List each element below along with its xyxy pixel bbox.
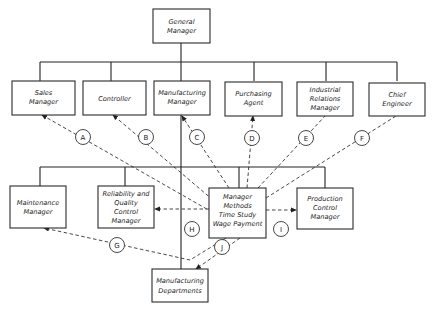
dashed-line-d <box>247 116 253 188</box>
node-label-line: Manager <box>311 104 341 112</box>
node-label-line: Manager <box>24 208 54 216</box>
label-b-text: B <box>144 134 149 142</box>
label-g: G <box>110 238 125 253</box>
label-c: C <box>190 130 205 145</box>
node-label-line: Manager <box>29 98 59 106</box>
node-label-line: Agent <box>243 99 264 107</box>
label-h: H <box>185 222 200 237</box>
node-label-line: Purchasing <box>235 90 271 98</box>
node-manufacturing-manager: Manufacturing Manager <box>154 81 210 115</box>
node-label-line: Reliability and <box>102 190 150 198</box>
node-label-line: Quality <box>114 199 138 207</box>
label-i-text: I <box>280 226 282 234</box>
node-production-control-manager: Production Control Manager <box>297 188 353 229</box>
node-manager-methods: Manager Methods Time Study Wage Payment <box>209 188 266 238</box>
node-label-line: Manufacturing <box>158 89 206 97</box>
node-label-line: Control <box>114 208 138 216</box>
node-label-line: Time Study <box>219 211 257 219</box>
node-label-line: Control <box>313 204 337 212</box>
node-label-line: Manager <box>223 193 253 201</box>
dashed-line-c <box>182 116 229 188</box>
node-manufacturing-departments: Manufacturing Departments <box>152 269 208 302</box>
label-j-text: J <box>220 244 223 252</box>
label-g-text: G <box>114 242 119 250</box>
label-b: B <box>139 130 154 145</box>
node-label-line: Production <box>307 195 342 203</box>
node-purchasing-agent: Purchasing Agent <box>225 82 282 116</box>
node-reliability-quality-control-manager: Reliability and Quality Control Manager <box>98 186 154 228</box>
node-label-line: Manager <box>167 27 197 35</box>
node-label-line: Methods <box>223 202 252 210</box>
label-e-text: E <box>304 135 308 143</box>
node-label-line: Manager <box>168 98 198 106</box>
node-controller: Controller <box>83 81 146 115</box>
node-label-line: Manager <box>112 217 142 225</box>
dashed-line-e <box>258 116 325 188</box>
node-label-line: Manager <box>311 213 341 221</box>
label-a-text: A <box>81 134 86 142</box>
node-label-line: Wage Payment <box>213 220 263 228</box>
dashed-line-f <box>266 116 396 198</box>
label-i: I <box>274 222 289 237</box>
node-label-line: Industrial <box>310 86 341 94</box>
label-f-text: F <box>360 135 364 143</box>
label-j: J <box>215 240 230 255</box>
node-label-line: Departments <box>158 287 202 295</box>
node-label-line: Engineer <box>382 100 413 108</box>
node-label-line: Relations <box>310 95 341 103</box>
node-label-line: General <box>169 18 195 26</box>
label-f: F <box>355 131 370 146</box>
node-label-line: Sales <box>35 89 53 97</box>
label-d: D <box>245 131 260 146</box>
organization-chart: General Manager Sales Manager Controller… <box>0 0 435 310</box>
node-industrial-relations-manager: Industrial Relations Manager <box>297 82 353 116</box>
node-label-line: Manufacturing <box>156 277 204 285</box>
node-label-line: Maintenance <box>17 199 59 207</box>
node-chief-engineer: Chief Engineer <box>369 83 425 116</box>
node-label-line: Chief <box>389 91 408 99</box>
node-general-manager: General Manager <box>153 9 210 43</box>
node-sales-manager: Sales Manager <box>12 81 75 115</box>
label-c-text: C <box>195 134 200 142</box>
label-a: A <box>76 130 91 145</box>
label-d-text: D <box>249 135 254 143</box>
node-maintenance-manager: Maintenance Manager <box>10 186 66 228</box>
label-h-text: H <box>189 226 194 234</box>
label-e: E <box>299 131 314 146</box>
node-label-line: Controller <box>98 95 132 103</box>
